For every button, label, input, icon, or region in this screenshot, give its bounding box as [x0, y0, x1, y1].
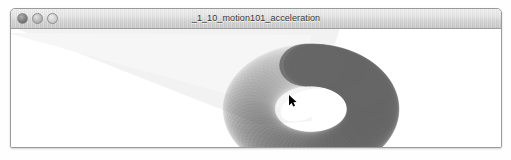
close-button-icon[interactable]: [17, 13, 28, 24]
spiral-trail-graphic: [11, 29, 501, 147]
minimize-button-icon[interactable]: [32, 13, 43, 24]
window-titlebar[interactable]: _1_10_motion101_acceleration: [11, 9, 501, 29]
screenshot-root: _1_10_motion101_acceleration: [0, 0, 511, 160]
window-controls: [17, 13, 58, 24]
window-title: _1_10_motion101_acceleration: [11, 9, 501, 28]
maximize-button-icon[interactable]: [47, 13, 58, 24]
motion101-acceleration-canvas[interactable]: [11, 29, 501, 147]
application-window: _1_10_motion101_acceleration: [10, 8, 502, 148]
trail-ellipse: [280, 44, 332, 86]
